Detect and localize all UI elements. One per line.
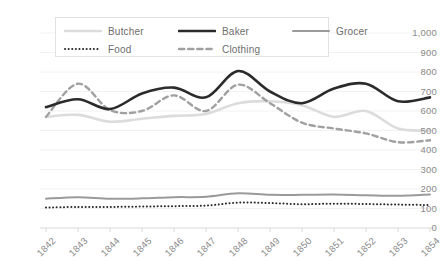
- legend-item-grocer[interactable]: Grocer: [292, 24, 368, 38]
- legend-label: Butcher: [108, 26, 144, 37]
- series-line-food: [46, 202, 430, 207]
- legend-swatch-butcher-icon: [64, 25, 102, 37]
- x-tick-marks-group: [46, 228, 430, 232]
- y-tick-label: 100: [399, 204, 437, 214]
- chart-legend: ButcherBakerGrocerFoodClothing: [55, 17, 329, 57]
- y-tick-label: 900: [399, 48, 437, 58]
- y-tick-label: 300: [399, 165, 437, 175]
- legend-label: Food: [108, 44, 132, 55]
- legend-swatch-baker-icon: [178, 25, 216, 37]
- y-tick-label: 800: [399, 67, 437, 77]
- legend-swatch-grocer-icon: [292, 25, 330, 37]
- legend-item-baker[interactable]: Baker: [178, 24, 249, 38]
- legend-item-food[interactable]: Food: [64, 42, 132, 56]
- series-line-grocer: [46, 193, 430, 199]
- legend-label: Baker: [222, 26, 249, 37]
- y-tick-label: 0: [399, 223, 437, 233]
- y-tick-label: 1,000: [399, 28, 437, 38]
- y-tick-label: 700: [399, 87, 437, 97]
- y-tick-label: 500: [399, 126, 437, 136]
- legend-item-clothing[interactable]: Clothing: [178, 42, 260, 56]
- y-tick-label: 600: [399, 106, 437, 116]
- legend-label: Clothing: [222, 44, 260, 55]
- legend-swatch-clothing-icon: [178, 43, 216, 55]
- legend-label: Grocer: [336, 26, 368, 37]
- legend-swatch-food-icon: [64, 43, 102, 55]
- y-tick-label: 200: [399, 184, 437, 194]
- legend-item-butcher[interactable]: Butcher: [64, 24, 144, 38]
- y-tick-label: 400: [399, 145, 437, 155]
